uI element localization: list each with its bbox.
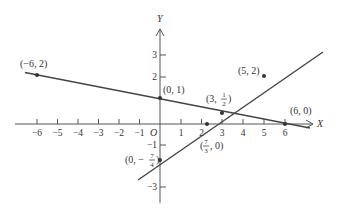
x-tick-label: 4 [241, 128, 246, 138]
point-m6-2 [35, 73, 39, 77]
point-5-2 [262, 74, 266, 78]
point-3-half [220, 111, 224, 115]
point-6-0 [283, 122, 287, 126]
line-x-plus-6y-eq-6 [25, 73, 310, 129]
point-7thirds-0 [205, 122, 209, 126]
svg-text:(3,: (3, [206, 93, 217, 105]
x-tick-label: −2 [114, 128, 124, 138]
y-tick-label: 2 [152, 72, 157, 82]
x-ticks [37, 119, 285, 124]
origin-label: O [150, 127, 157, 138]
svg-text:): ) [156, 154, 159, 166]
svg-text:2: 2 [222, 100, 226, 108]
x-tick-label: −4 [73, 128, 83, 138]
coordinate-plane-diagram: −6 −5 −4 −3 −2 −1 1 2 3 4 5 6 O 3 2 −1 −… [0, 0, 341, 209]
svg-text:): ) [228, 93, 231, 105]
line-3x-minus-4y-eq-7 [138, 52, 323, 180]
y-tick-label: 3 [152, 50, 157, 60]
svg-text:, 0): , 0) [210, 140, 223, 152]
svg-text:7: 7 [204, 138, 208, 146]
y-tick-label: −3 [147, 182, 157, 192]
y-tick-label: −1 [147, 140, 157, 150]
label-3-half: (3, 1 2 ) [206, 91, 231, 108]
x-tick-label: 5 [262, 128, 267, 138]
svg-text:7: 7 [150, 152, 154, 160]
y-axis-label: Y [157, 13, 164, 24]
label-6-0: (6, 0) [290, 105, 312, 117]
x-tick-label: −5 [52, 128, 62, 138]
x-axis-label: X [316, 118, 324, 129]
label-5-2: (5, 2) [238, 65, 260, 77]
svg-text:4: 4 [150, 161, 154, 169]
lines [25, 52, 323, 180]
x-tick-label: 6 [283, 128, 288, 138]
label-0-m7fourths: (0, − 7 4 ) [125, 152, 159, 169]
x-tick-label: 1 [179, 128, 184, 138]
label-7thirds-0: ( 7 3 , 0) [200, 138, 223, 155]
label-m6-2: (−6, 2) [20, 58, 47, 70]
svg-text:3: 3 [204, 147, 208, 155]
point-0-1 [158, 96, 162, 100]
x-tick-label: −3 [93, 128, 103, 138]
x-tick-label: −1 [134, 128, 144, 138]
x-tick-label: −6 [32, 128, 42, 138]
y-ticks [160, 55, 166, 187]
x-tick-label: 3 [220, 128, 225, 138]
svg-text:(0, −: (0, − [125, 154, 144, 166]
points [35, 73, 287, 162]
label-0-1: (0, 1) [163, 84, 185, 96]
svg-text:1: 1 [222, 91, 226, 99]
